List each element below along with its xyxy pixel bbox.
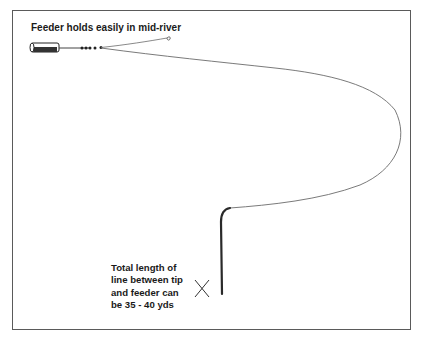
hook-icon [167,37,170,40]
diagram-title: Feeder holds easily in mid-river [31,22,181,33]
rod-tip [221,208,230,294]
note-line: Total length of [111,262,183,274]
note-line: and feeder can [111,287,183,299]
note-line: line between tip [111,274,183,286]
hook-link [101,38,167,48]
main-line [101,48,401,208]
line-length-note: Total length of line between tip and fee… [111,262,183,312]
diagram-illustration [0,0,421,338]
feeder-icon [30,43,59,52]
angler-position-marker [195,280,209,297]
note-line: be 35 - 40 yds [111,299,183,311]
